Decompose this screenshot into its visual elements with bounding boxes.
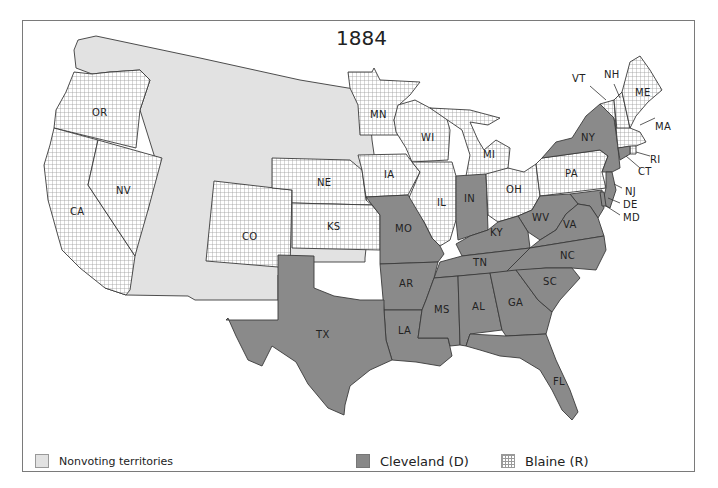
us-map-1884: OR CA NV CO NE KS MN WI IA IL MI IN OH P… (0, 0, 718, 488)
label-ny: NY (581, 132, 596, 143)
label-ct: CT (638, 166, 652, 177)
legend-nonvoting: Nonvoting territories (35, 453, 173, 469)
label-ca: CA (70, 206, 84, 217)
label-in: IN (464, 193, 475, 204)
label-ar: AR (399, 278, 413, 289)
label-ms: MS (434, 304, 450, 315)
label-me: ME (635, 87, 651, 98)
label-ma: MA (655, 121, 671, 132)
blaine-swatch (501, 454, 515, 468)
label-ks: KS (327, 221, 341, 232)
map-title: 1884 (336, 26, 387, 50)
label-tn: TN (472, 257, 487, 268)
label-or: OR (92, 107, 107, 118)
legend-blaine: Blaine (R) (501, 453, 589, 469)
legend-nonvoting-label: Nonvoting territories (59, 455, 173, 468)
label-md: MD (623, 212, 640, 223)
label-va: VA (563, 219, 577, 230)
label-tx: TX (315, 329, 330, 340)
label-mi: MI (483, 149, 495, 160)
legend-cleveland: Cleveland (D) (356, 453, 469, 469)
label-sc: SC (543, 276, 557, 287)
label-al: AL (472, 301, 485, 312)
label-il: IL (437, 197, 446, 208)
label-oh: OH (506, 184, 522, 195)
label-ga: GA (508, 297, 523, 308)
label-la: LA (398, 325, 411, 336)
label-nj: NJ (625, 186, 636, 197)
label-fl: FL (553, 376, 565, 387)
label-wi: WI (421, 132, 434, 143)
legend-cleveland-label: Cleveland (D) (380, 454, 469, 469)
label-nh: NH (604, 69, 620, 80)
state-ri (630, 146, 636, 154)
label-wv: WV (532, 212, 549, 223)
label-ia: IA (384, 169, 394, 180)
label-co: CO (242, 231, 257, 242)
state-in (456, 174, 488, 240)
label-ne: NE (317, 177, 331, 188)
cleveland-swatch (356, 454, 370, 468)
label-pa: PA (565, 168, 578, 179)
label-nc: NC (560, 250, 575, 261)
label-mo: MO (395, 223, 412, 234)
nonvoting-swatch (35, 454, 49, 468)
label-de: DE (623, 199, 638, 210)
label-nv: NV (116, 185, 131, 196)
label-vt: VT (572, 73, 586, 84)
label-ri: RI (650, 154, 661, 165)
state-ma (616, 128, 646, 148)
label-ky: KY (490, 227, 504, 238)
label-mn: MN (370, 109, 387, 120)
legend-blaine-label: Blaine (R) (525, 454, 589, 469)
